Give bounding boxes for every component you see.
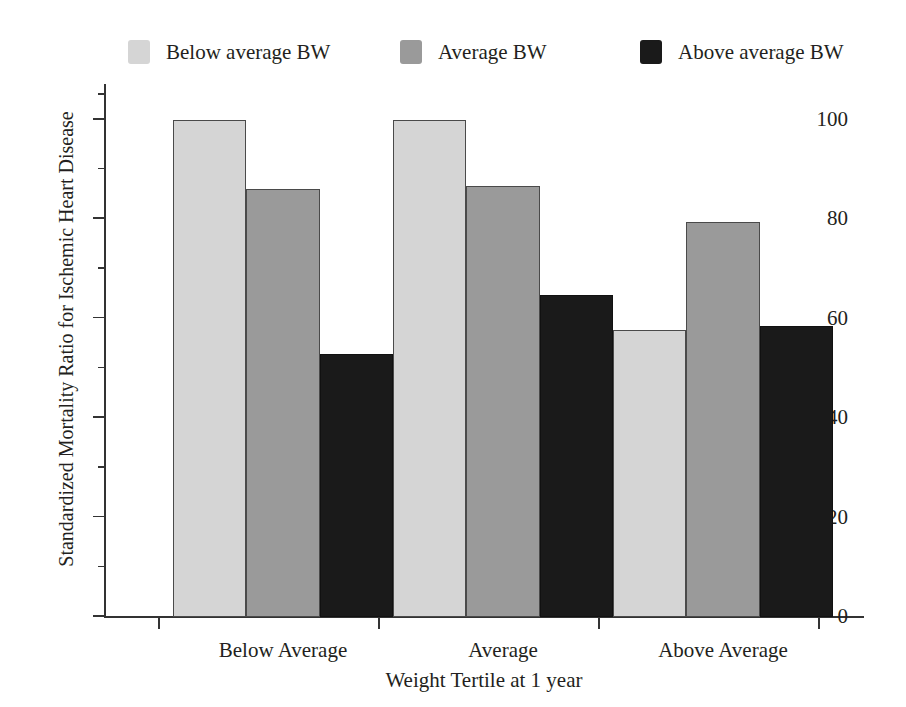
x-tick-label: Below Average	[219, 638, 347, 663]
x-tick	[818, 617, 820, 629]
x-tick-label: Above Average	[658, 638, 788, 663]
chart-figure: Below average BW Average BW Above averag…	[0, 0, 906, 707]
y-tick-major	[93, 317, 104, 319]
bar	[686, 222, 759, 617]
x-axis-title: Weight Tertile at 1 year	[104, 668, 864, 693]
y-tick-major	[93, 615, 104, 617]
bar	[173, 120, 246, 617]
y-tick-major	[93, 217, 104, 219]
y-tick-minor	[98, 566, 104, 568]
y-tick-label: 80	[827, 206, 848, 231]
y-tick-minor	[98, 466, 104, 468]
bar	[246, 189, 319, 617]
y-tick-major	[93, 516, 104, 518]
x-tick-label: Average	[468, 638, 538, 663]
y-tick-minor	[98, 267, 104, 269]
bar	[540, 295, 613, 617]
x-tick	[158, 617, 160, 629]
y-tick-minor	[98, 93, 104, 95]
x-tick	[378, 617, 380, 629]
y-axis-line	[104, 84, 106, 618]
y-tick-label: 0	[838, 604, 849, 629]
plot-area: 020406080100 Below AverageAverageAbove A…	[104, 60, 864, 618]
bar	[466, 186, 539, 617]
y-tick-minor	[98, 367, 104, 369]
y-tick-major	[93, 118, 104, 120]
y-tick-major	[93, 416, 104, 418]
y-axis-title: Standardized Mortality Ratio for Ischemi…	[52, 60, 80, 618]
bar	[613, 330, 686, 617]
x-tick	[598, 617, 600, 629]
bar	[760, 326, 833, 617]
bar	[320, 354, 393, 618]
y-tick-label: 100	[817, 106, 849, 131]
y-tick-minor	[98, 168, 104, 170]
bar	[393, 120, 466, 617]
